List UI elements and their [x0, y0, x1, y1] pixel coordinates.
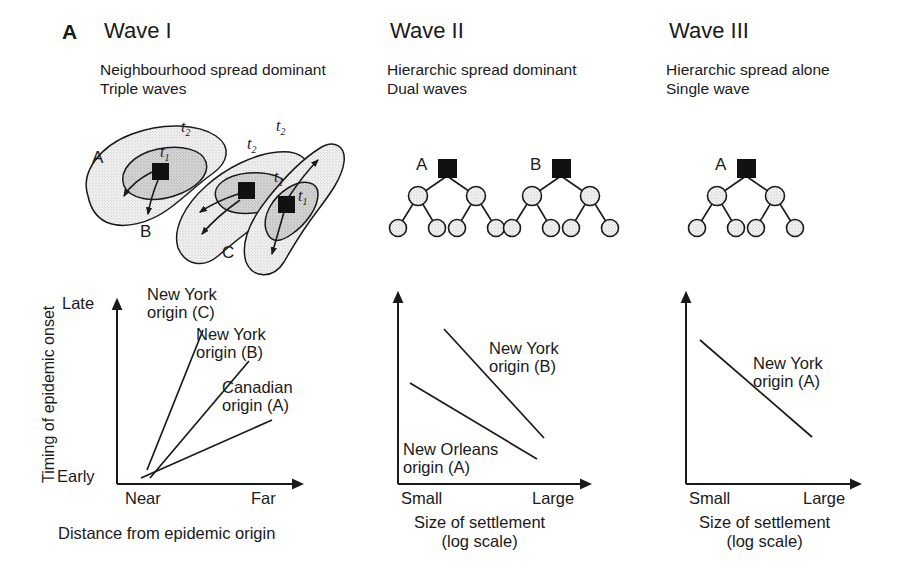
region-b-spread-arrow	[200, 194, 238, 212]
chart-1-x-tick-near: Near	[125, 489, 161, 508]
chart-2-x-tick-large: Large	[532, 489, 574, 508]
column-subtitle-wave-3: Hierarchic spread alone Single wave	[666, 60, 830, 98]
chart-1-x-axis-title: Distance from epidemic origin	[58, 524, 275, 543]
axis-title-line: Size of settlement	[699, 513, 830, 532]
region-a-spread-arrow	[124, 172, 152, 196]
subtitle-line: Dual waves	[387, 79, 577, 98]
tree-leaf-node	[748, 220, 765, 237]
label-line: New York	[753, 354, 823, 372]
label-line: New York	[196, 325, 266, 343]
chart-3-label-new-york-a: New York origin (A)	[753, 354, 823, 390]
tree-edge	[717, 196, 736, 228]
label-line: origin (C)	[147, 303, 217, 321]
tree-leaf-node	[602, 220, 619, 237]
figure-canvas: A Wave I Wave II Wave III Neighbourhood …	[0, 0, 897, 582]
tree-edge	[447, 176, 476, 196]
region-c-spread-arrow	[272, 212, 284, 254]
axis-title-line: (log scale)	[699, 532, 830, 551]
tree-leaf-node	[488, 220, 505, 237]
tree-root-node	[438, 159, 457, 178]
region-b-outer-t2	[177, 152, 309, 264]
region-c-outer-t2	[244, 144, 344, 275]
time-label-t2-region-c: t2	[276, 117, 285, 137]
tree-leaf-node	[787, 220, 804, 237]
chart-2-x-axis-title: Size of settlement (log scale)	[414, 513, 545, 551]
tree-edge	[697, 196, 717, 228]
time-label-t1-region-c: t1	[298, 187, 307, 207]
region-label-c: C	[222, 243, 234, 263]
chart-1-label-canadian-a: Canadian origin (A)	[222, 378, 293, 414]
chart-1-y-axis-title: Timing of epidemic onset	[40, 306, 58, 483]
label-line: origin (A)	[222, 396, 293, 414]
label-line: origin (A)	[403, 458, 498, 476]
subtitle-line: Triple waves	[100, 79, 326, 98]
label-line: New York	[489, 339, 559, 357]
tree-edge	[398, 196, 418, 228]
tree-edge	[561, 176, 590, 196]
region-a-outer-t2	[86, 126, 226, 225]
chart-1-y-tick-early: Early	[57, 467, 95, 486]
tree-root-label-a-wave-3: A	[715, 155, 726, 175]
chart-1-label-new-york-b: New York origin (B)	[196, 325, 266, 361]
tree-edge	[756, 196, 775, 228]
label-line: origin (B)	[196, 343, 266, 361]
tree-mid-node	[766, 187, 785, 206]
tree-edge	[457, 196, 476, 228]
region-a-source-square	[152, 163, 169, 180]
subtitle-line: Neighbourhood spread dominant	[100, 60, 326, 79]
axis-title-line: Size of settlement	[414, 513, 545, 532]
column-title-wave-1: Wave I	[104, 18, 172, 44]
tree-edge	[476, 196, 496, 228]
tree-edge	[532, 176, 561, 196]
hierarchy-tree-a-wave-2	[390, 159, 505, 237]
tree-mid-node	[409, 187, 428, 206]
region-c-source-square	[278, 196, 295, 213]
region-c-inner-t1	[265, 182, 318, 240]
time-label-t2-region-b: t2	[247, 135, 256, 155]
tree-edge	[418, 196, 437, 228]
tree-leaf-node	[543, 220, 560, 237]
subtitle-line: Single wave	[666, 79, 830, 98]
time-label-t2-region-a: t2	[181, 118, 190, 138]
tree-leaf-node	[689, 220, 706, 237]
column-subtitle-wave-2: Hierarchic spread dominant Dual waves	[387, 60, 577, 98]
tree-mid-node	[708, 187, 727, 206]
region-label-b: B	[140, 222, 151, 242]
axis-title-line: (log scale)	[414, 532, 545, 551]
chart-2-label-new-york-b: New York origin (B)	[489, 339, 559, 375]
tree-edge	[775, 196, 795, 228]
tree-leaf-node	[563, 220, 580, 237]
tree-leaf-node	[429, 220, 446, 237]
tree-edge	[590, 196, 610, 228]
label-line: Canadian	[222, 378, 293, 396]
chart-1-x-tick-far: Far	[251, 489, 276, 508]
chart-3-x-axis-title: Size of settlement (log scale)	[699, 513, 830, 551]
tree-edge	[746, 176, 775, 196]
region-label-a: A	[92, 148, 103, 168]
time-label-t1-region-a: t1	[160, 143, 169, 163]
chart-3-x-tick-small: Small	[689, 489, 730, 508]
tree-root-label-b-wave-2: B	[530, 155, 541, 175]
chart-1-label-new-york-c: New York origin (C)	[147, 285, 217, 321]
label-line: origin (B)	[489, 357, 559, 375]
tree-root-node	[737, 159, 756, 178]
time-label-t1-region-b: t1	[274, 168, 283, 188]
chart-3-x-tick-large: Large	[803, 489, 845, 508]
column-subtitle-wave-1: Neighbourhood spread dominant Triple wav…	[100, 60, 326, 98]
tree-mid-node	[523, 187, 542, 206]
tree-leaf-node	[504, 220, 521, 237]
region-a-spread-arrow	[148, 180, 158, 214]
tree-leaf-node	[728, 220, 745, 237]
panel-letter-a: A	[62, 20, 77, 44]
hierarchy-tree-a-wave-3	[689, 159, 804, 237]
tree-edge	[571, 196, 590, 228]
tree-root-node	[552, 159, 571, 178]
tree-edge	[717, 176, 746, 196]
tree-leaf-node	[390, 220, 407, 237]
subtitle-line: Hierarchic spread alone	[666, 60, 830, 79]
tree-edge	[418, 176, 447, 196]
tree-edge	[532, 196, 551, 228]
region-b-spread-arrow	[202, 200, 240, 234]
label-line: origin (A)	[753, 372, 823, 390]
label-line: New Orleans	[403, 440, 498, 458]
